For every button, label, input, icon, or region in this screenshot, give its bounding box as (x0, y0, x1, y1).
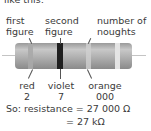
label-second-figure: second figure (45, 15, 79, 37)
band-name: violet (44, 80, 78, 91)
pointer-second (60, 38, 61, 44)
label-first-figure: first figure (6, 15, 34, 37)
band-name: red (12, 80, 42, 91)
pointer-violet (60, 69, 61, 79)
band-digit: 000 (85, 91, 125, 102)
band-name: orange (85, 80, 125, 91)
label-number-of-noughts: number of noughts (97, 15, 146, 37)
label-line: number of (97, 15, 146, 26)
resistance-result-line1: So: resistance = 27 000 Ω (6, 103, 130, 114)
label-line: figure (6, 26, 34, 37)
band-digit: 2 (12, 91, 42, 102)
resistor-lead-left (2, 55, 16, 56)
label-red: red 2 (12, 80, 42, 102)
band-digit: 7 (44, 91, 78, 102)
label-violet: violet 7 (44, 80, 78, 102)
band-violet (57, 43, 63, 69)
resistor-lead-right (131, 55, 146, 56)
label-line: first (6, 15, 34, 26)
resistance-result-line2: = 27 kΩ (66, 116, 105, 127)
band-tolerance (115, 43, 120, 69)
label-line: noughts (97, 26, 146, 37)
intro-text: like this: (4, 0, 44, 5)
label-line: second (45, 15, 79, 26)
band-orange (86, 43, 91, 69)
label-orange: orange 000 (85, 80, 125, 102)
pointer-red (28, 69, 33, 78)
label-line: figure (45, 26, 79, 37)
pointer-orange (87, 69, 92, 78)
band-red (28, 43, 33, 69)
